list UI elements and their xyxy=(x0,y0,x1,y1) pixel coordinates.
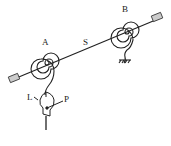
label-l: L xyxy=(27,92,33,102)
spiral-spring-a xyxy=(31,53,59,95)
label-s: S xyxy=(83,37,88,47)
lever-assembly xyxy=(34,92,63,130)
pointer-line xyxy=(47,101,63,108)
right-end-cap xyxy=(151,12,163,21)
left-end-cap xyxy=(8,73,20,82)
lever-body xyxy=(40,92,54,116)
label-b: B xyxy=(122,4,128,14)
lever-label-leader xyxy=(34,97,38,100)
shaft xyxy=(14,19,158,79)
diagram-canvas: A S B L P xyxy=(0,0,171,146)
label-a: A xyxy=(42,37,49,47)
label-p: P xyxy=(64,94,69,104)
